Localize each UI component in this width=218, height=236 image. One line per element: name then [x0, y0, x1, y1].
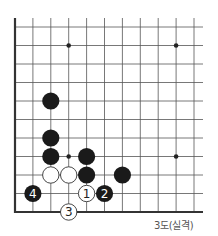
black-stone — [78, 148, 95, 165]
hoshi-point-icon — [66, 43, 71, 48]
hoshi-point-icon — [174, 154, 179, 159]
move-number-label: 4 — [29, 187, 37, 201]
white-stone — [43, 167, 59, 183]
black-stone — [42, 129, 59, 146]
hoshi-point-icon — [66, 154, 71, 159]
hoshi-point-icon — [174, 43, 179, 48]
black-stone — [42, 148, 59, 165]
move-number-label: 3 — [65, 205, 73, 219]
white-stone — [60, 167, 76, 183]
go-board: 1234 — [0, 0, 218, 236]
move-number-label: 1 — [83, 187, 91, 201]
black-stone — [78, 166, 95, 183]
diagram-caption: 3도(실격) — [154, 217, 214, 232]
move-number-label: 2 — [101, 187, 109, 201]
black-stone — [114, 166, 131, 183]
black-stone — [42, 92, 59, 109]
